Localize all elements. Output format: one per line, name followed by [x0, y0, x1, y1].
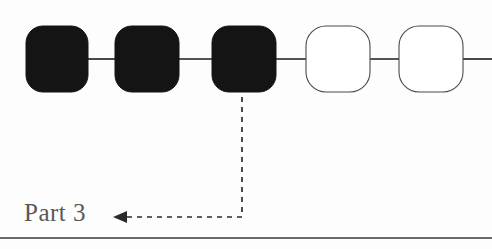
node-1-filled[interactable] [26, 26, 88, 92]
callout-label: Part 3 [24, 200, 86, 225]
callout-arrowhead-icon [113, 211, 127, 223]
node-5-open[interactable] [399, 26, 463, 92]
node-4-open[interactable] [306, 26, 370, 92]
node-3-filled[interactable] [212, 26, 276, 92]
callout-leader-line [126, 97, 242, 217]
diagram-canvas: Part 3 [0, 0, 492, 249]
node-2-filled[interactable] [115, 26, 179, 92]
